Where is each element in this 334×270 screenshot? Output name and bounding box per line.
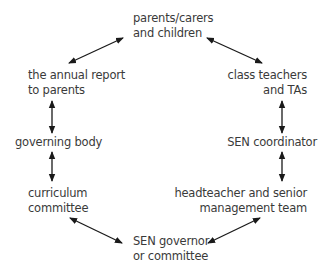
node-curriculum-committee-line-2: committee	[28, 201, 88, 216]
node-curriculum-committee-line-1: curriculum	[28, 186, 88, 201]
node-annual-report: the annual report to parents	[28, 68, 125, 98]
node-class-teachers-line-1: class teachers	[228, 68, 307, 83]
node-governing-body-line-1: governing body	[15, 135, 102, 150]
node-sen-coordinator: SEN coordinator	[227, 135, 317, 150]
node-governing-body: governing body	[15, 135, 102, 150]
node-headteacher-line-2: management team	[174, 201, 307, 216]
node-annual-report-line-2: to parents	[28, 83, 125, 98]
node-sen-governor-line-2: or committee	[133, 249, 209, 264]
node-headteacher-line-1: headteacher and senior	[174, 186, 307, 201]
arrow-parents-class-teachers	[207, 38, 262, 63]
arrow-headteacher-sen-governor	[208, 218, 260, 243]
node-parents-line-2: and children	[133, 26, 213, 41]
node-curriculum-committee: curriculum committee	[28, 186, 88, 216]
node-sen-coordinator-line-1: SEN coordinator	[227, 135, 317, 150]
node-headteacher: headteacher and senior management team	[174, 186, 307, 216]
node-sen-governor: SEN governor or committee	[133, 234, 209, 264]
node-sen-governor-line-1: SEN governor	[133, 234, 209, 249]
node-class-teachers: class teachers and TAs	[228, 68, 307, 98]
arrow-annual-report-parents	[69, 38, 123, 63]
arrow-curriculum-sen-governor	[70, 218, 122, 243]
node-class-teachers-line-2: and TAs	[228, 83, 307, 98]
node-parents-line-1: parents/carers	[133, 11, 213, 26]
node-annual-report-line-1: the annual report	[28, 68, 125, 83]
node-parents: parents/carers and children	[133, 11, 213, 41]
